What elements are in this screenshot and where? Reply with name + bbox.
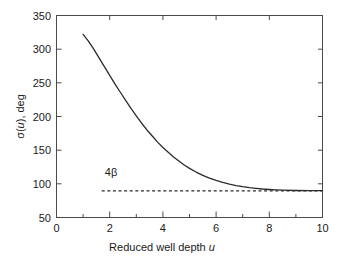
x-axis-title-text: Reduced well depth bbox=[109, 241, 206, 253]
four-beta-label: 4β bbox=[105, 166, 117, 178]
sigma-vs-well-depth-chart: 350 300 250 200 150 100 50 0 2 4 6 8 10 … bbox=[0, 0, 343, 264]
y-tick-label: 50 bbox=[39, 212, 51, 224]
x-axis-title-variable: u bbox=[209, 241, 215, 253]
y-axis-title: σ(u), deg bbox=[14, 94, 26, 139]
x-tick-label: 6 bbox=[213, 222, 219, 234]
svg-text:σ(u), deg: σ(u), deg bbox=[14, 94, 26, 139]
x-axis-title: Reduced well depth u bbox=[109, 241, 215, 253]
y-tick-label: 300 bbox=[33, 43, 51, 55]
x-tick-label: 0 bbox=[53, 222, 59, 234]
y-tick-label: 200 bbox=[33, 111, 51, 123]
y-tick-label: 100 bbox=[33, 178, 51, 190]
chart-background bbox=[0, 0, 343, 264]
x-tick-label: 2 bbox=[107, 222, 113, 234]
x-tick-label: 10 bbox=[316, 222, 328, 234]
chart-page: 350 300 250 200 150 100 50 0 2 4 6 8 10 … bbox=[0, 0, 343, 264]
y-tick-label: 250 bbox=[33, 77, 51, 89]
svg-text:Reduced well depth u: Reduced well depth u bbox=[109, 241, 215, 253]
y-tick-label: 350 bbox=[33, 10, 51, 22]
y-axis-title-rest: ), deg bbox=[14, 94, 26, 122]
y-axis-title-sigma: σ( bbox=[14, 128, 26, 139]
x-tick-label: 4 bbox=[160, 222, 166, 234]
y-tick-label: 150 bbox=[33, 144, 51, 156]
x-tick-label: 8 bbox=[266, 222, 272, 234]
